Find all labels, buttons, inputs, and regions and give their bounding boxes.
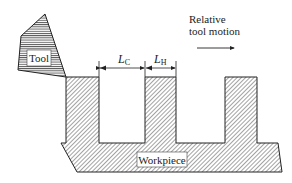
lc-arrow-left-icon: [100, 66, 106, 71]
lh-label: LH: [153, 52, 167, 67]
workpiece: Workpiece: [61, 77, 282, 172]
diagram-canvas: Tool Workpiece LC LH Relative tool motio…: [0, 0, 292, 183]
lh-arrow-left-icon: [146, 66, 152, 71]
workpiece-label: Workpiece: [138, 154, 185, 166]
tool-label: Tool: [29, 52, 49, 64]
motion-label-line2: tool motion: [189, 25, 241, 37]
motion-label-line1: Relative: [189, 13, 226, 25]
lc-label: LC: [117, 52, 130, 67]
tool: Tool: [18, 14, 66, 77]
